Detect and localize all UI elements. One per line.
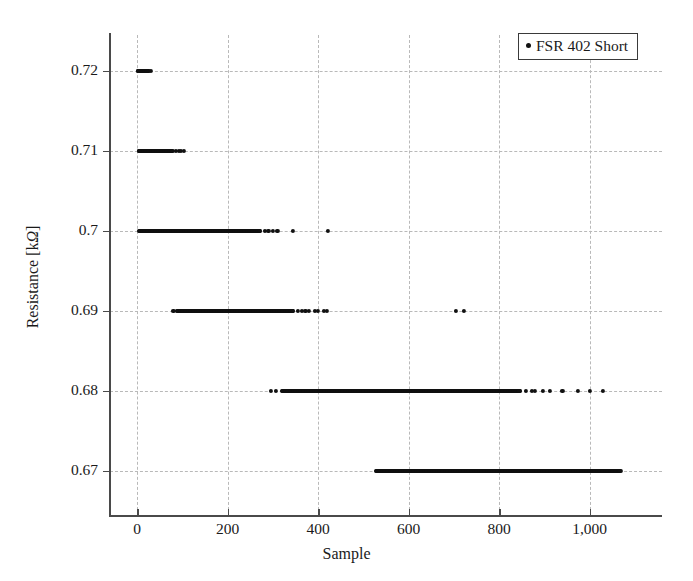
y-tick-mark-1 (103, 391, 110, 392)
y-tick-mark-2 (103, 311, 110, 312)
gridline-y-5 (110, 71, 662, 72)
x-axis-spine (109, 515, 662, 517)
x-tick-mark-2 (318, 509, 319, 516)
gridline-y-4 (110, 151, 662, 152)
x-tick-label-2: 400 (307, 520, 330, 538)
data-point (601, 389, 605, 393)
x-axis-title: Sample (0, 545, 693, 563)
data-point (291, 229, 295, 233)
legend[interactable]: FSR 402 Short (518, 33, 638, 60)
plot-area (110, 35, 662, 515)
data-point (540, 389, 544, 393)
y-tick-mark-4 (103, 151, 110, 152)
x-tick-mark-1 (228, 509, 229, 516)
dot-marker-icon (526, 43, 531, 48)
y-tick-label-3: 0.7 (79, 221, 98, 239)
data-point (454, 309, 458, 313)
x-tick-mark-0 (137, 509, 138, 516)
y-axis-title-text: Resistance [k (24, 243, 41, 329)
y-tick-label-5: 0.72 (71, 61, 98, 79)
gridline-x-2 (318, 35, 319, 515)
gridline-x-1 (228, 35, 229, 515)
data-point (325, 309, 329, 313)
data-point (533, 389, 537, 393)
data-point (588, 389, 592, 393)
scatter-chart-figure: 0.670.680.690.70.710.72 02004006008001,0… (0, 0, 693, 581)
y-tick-label-2: 0.69 (71, 301, 98, 319)
y-tick-label-4: 0.71 (71, 141, 98, 159)
legend-entry-label: FSR 402 Short (536, 38, 628, 54)
y-tick-label-0: 0.67 (71, 461, 98, 479)
gridline-x-3 (409, 35, 410, 515)
data-point (517, 389, 521, 393)
x-tick-mark-5 (590, 509, 591, 516)
y-tick-mark-0 (103, 471, 110, 472)
gridline-x-5 (590, 35, 591, 515)
x-tick-label-5: 1,000 (572, 520, 607, 538)
x-tick-label-1: 200 (216, 520, 239, 538)
data-point (307, 309, 311, 313)
y-tick-mark-3 (103, 231, 110, 232)
data-point (182, 149, 186, 153)
data-point (291, 309, 295, 313)
data-point (560, 389, 564, 393)
data-point (548, 389, 552, 393)
data-point (149, 69, 153, 73)
y-tick-label-1: 0.68 (71, 381, 98, 399)
data-point (326, 229, 330, 233)
y-axis-spine (109, 33, 111, 517)
gridline-x-0 (137, 35, 138, 515)
x-tick-mark-4 (499, 509, 500, 516)
x-tick-label-4: 800 (487, 520, 510, 538)
data-point (576, 389, 580, 393)
y-tick-mark-5 (103, 71, 110, 72)
data-point (524, 389, 528, 393)
x-tick-mark-3 (409, 509, 410, 516)
data-point (316, 309, 320, 313)
ohm-symbol: Ω (24, 231, 41, 243)
data-point (274, 389, 278, 393)
x-tick-label-0: 0 (133, 520, 141, 538)
y-axis-title: Resistance [kΩ] (24, 97, 42, 457)
y-axis-title-bracket: ] (24, 226, 41, 231)
data-point (462, 309, 466, 313)
gridline-x-4 (499, 35, 500, 515)
data-point (618, 469, 622, 473)
data-point (275, 229, 279, 233)
x-tick-label-3: 600 (397, 520, 420, 538)
